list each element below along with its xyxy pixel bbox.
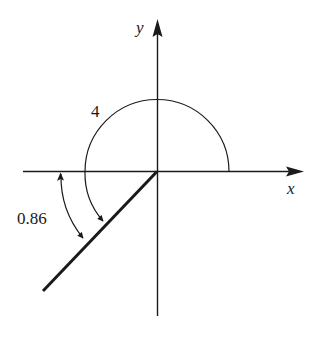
- y-axis-label: y: [134, 18, 144, 37]
- small-angle-arc: [61, 174, 83, 238]
- angle-diagram: y x 4 0.86: [0, 0, 319, 337]
- y-axis: [153, 19, 163, 316]
- terminal-ray: [43, 172, 157, 292]
- x-axis: [23, 167, 304, 177]
- large-angle-label: 4: [91, 102, 100, 121]
- x-axis-label: x: [286, 179, 295, 198]
- small-angle-label: 0.86: [17, 209, 47, 228]
